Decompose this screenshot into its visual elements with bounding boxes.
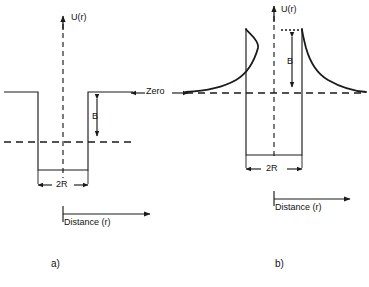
panel-b-distance-axis-label: Distance (r) bbox=[275, 203, 322, 212]
potential-energy-figure: U(r) B 2R Distance (r) a) Zero U(r) B 2R… bbox=[0, 0, 369, 287]
panel-b-letter: b) bbox=[275, 258, 284, 269]
panel-b-right-tail bbox=[302, 29, 366, 92]
panel-b-left-tail bbox=[186, 29, 258, 92]
panel-a-u-axis-label: U(r) bbox=[71, 13, 87, 22]
panel-b-graph bbox=[186, 6, 366, 206]
panel-b-u-axis-label: U(r) bbox=[281, 5, 297, 14]
panel-a-letter: a) bbox=[51, 258, 60, 269]
panel-a-graph bbox=[4, 16, 150, 222]
zero-label: Zero bbox=[146, 87, 165, 96]
panel-a-distance-axis-label: Distance (r) bbox=[64, 218, 111, 227]
panel-b-width-label: 2R bbox=[266, 164, 278, 173]
panel-b-height-label: B bbox=[287, 57, 293, 66]
panel-a-depth-label: B bbox=[92, 112, 98, 121]
panel-a-width-label: 2R bbox=[56, 180, 68, 189]
panel-a-well-curve bbox=[4, 92, 133, 170]
figure-canvas bbox=[0, 0, 369, 287]
